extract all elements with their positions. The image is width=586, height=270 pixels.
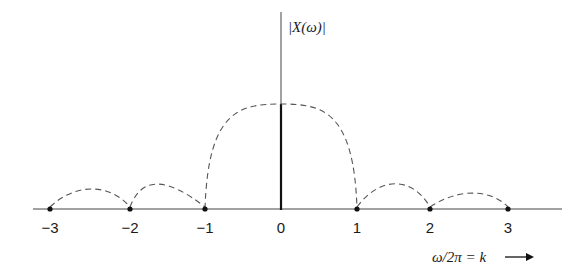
tick-label: 1 — [353, 219, 361, 236]
tick-label: 3 — [504, 219, 512, 236]
sinc-envelope — [50, 104, 508, 209]
tick-label: −1 — [196, 219, 213, 236]
chart: −3 −2 −1 0 1 2 3 |X(ω)| ω/2π = k — [0, 0, 586, 270]
arrow-right-icon — [505, 253, 534, 261]
y-axis-label: |X(ω)| — [288, 19, 326, 36]
tick-label: −3 — [41, 219, 58, 236]
tick-label: 2 — [426, 219, 434, 236]
tick-label: 0 — [277, 219, 285, 236]
tick-label: −2 — [121, 219, 138, 236]
x-axis-label: ω/2π = k — [432, 249, 486, 265]
